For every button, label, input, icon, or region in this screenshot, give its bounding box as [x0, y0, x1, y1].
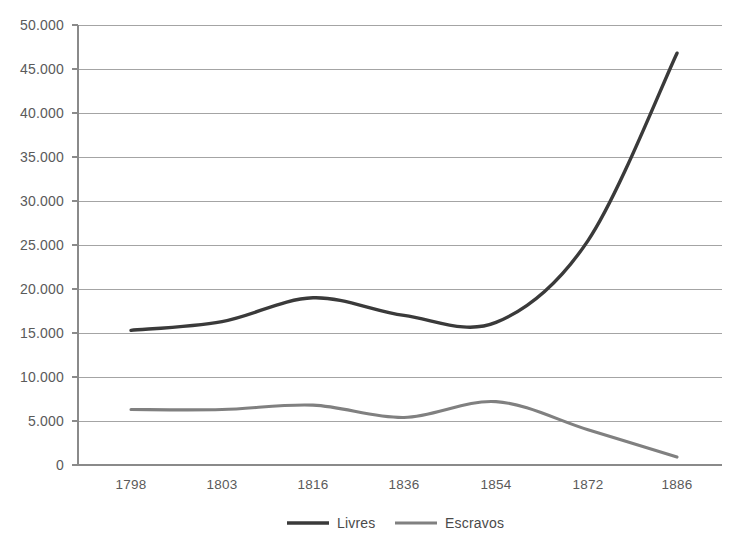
y-axis-label-45000: 45.000: [20, 61, 64, 77]
y-axis-labels: 50.000 45.000 40.000 35.000 30.000 25.00…: [20, 17, 64, 473]
y-axis-label-35000: 35.000: [20, 149, 64, 165]
x-axis-label-1836: 1836: [389, 477, 420, 492]
y-axis-label-30000: 30.000: [20, 193, 64, 209]
legend: Livres Escravos: [287, 515, 504, 531]
legend-label-livres: Livres: [337, 515, 376, 531]
x-axis-label-1816: 1816: [298, 477, 329, 492]
y-axis-label-25000: 25.000: [20, 237, 64, 253]
chart-container: 50.000 45.000 40.000 35.000 30.000 25.00…: [0, 0, 746, 545]
series-group: [131, 53, 677, 457]
y-tick-marks: [72, 25, 78, 465]
gridlines-group: [78, 25, 722, 465]
line-chart: 50.000 45.000 40.000 35.000 30.000 25.00…: [0, 0, 746, 545]
x-axis-label-1803: 1803: [207, 477, 238, 492]
legend-label-escravos: Escravos: [445, 515, 504, 531]
y-axis-label-20000: 20.000: [20, 281, 64, 297]
y-axis-label-50000: 50.000: [20, 17, 64, 33]
series-line-escravos: [131, 401, 677, 457]
x-axis-label-1854: 1854: [481, 477, 512, 492]
y-axis-label-15000: 15.000: [20, 325, 64, 341]
y-axis-label-10000: 10.000: [20, 369, 64, 385]
y-axis-label-40000: 40.000: [20, 105, 64, 121]
x-axis-label-1798: 1798: [116, 477, 147, 492]
x-axis-label-1872: 1872: [573, 477, 604, 492]
y-axis-label-5000: 5.000: [28, 413, 64, 429]
y-axis-label-0: 0: [56, 457, 64, 473]
x-axis-labels: 1798 1803 1816 1836 1854 1872 1886: [116, 477, 693, 492]
x-axis-label-1886: 1886: [662, 477, 693, 492]
